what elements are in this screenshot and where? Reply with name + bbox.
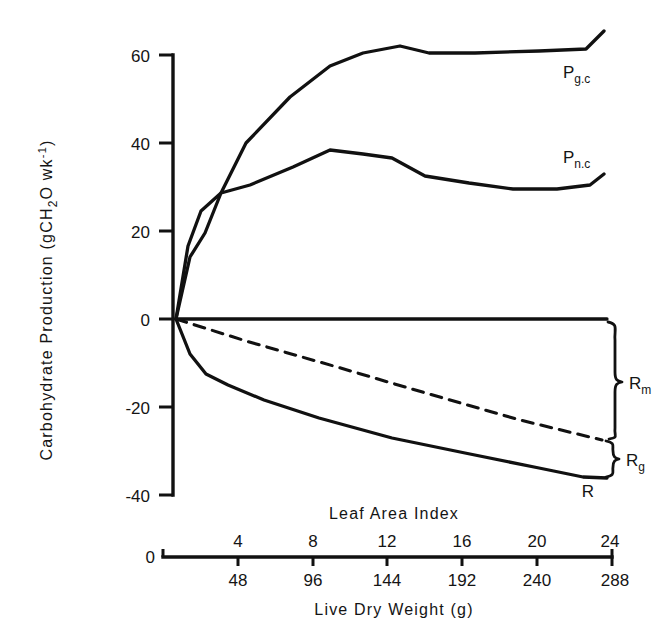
curve-rm-dashed: [176, 319, 602, 440]
brace-rg-label: Rg: [626, 451, 645, 474]
x-tick-label-0: 0: [146, 548, 155, 567]
x-tick-label-bottom-48: 48: [229, 571, 248, 590]
rm-sub: m: [641, 383, 651, 397]
curve-pgc: [176, 31, 604, 319]
pnc-base: P: [563, 148, 574, 167]
x-tick-label-bottom-288: 288: [601, 571, 629, 590]
figure-page: 60 40 20 0 -20 -40 Carbohydrate Producti…: [0, 0, 669, 636]
y-axis-title: Carbohydrate Production (gCH2O wk-1): [36, 139, 60, 460]
pnc-sub: n.c: [574, 157, 590, 171]
y-tick-label-0: 0: [141, 311, 150, 330]
x-tick-label-top-20: 20: [528, 532, 547, 551]
x-tick-label-bottom-96: 96: [304, 571, 323, 590]
y-axis-title-prefix: Carbohydrate Production (gCH: [38, 207, 55, 460]
pgc-sub: g.c: [574, 72, 590, 86]
y-tick-label-neg40: -40: [125, 487, 150, 506]
brace-rg: Rg: [606, 441, 645, 477]
curve-label-pnc-text: Pn.c: [563, 148, 590, 171]
rg-sub: g: [638, 460, 645, 474]
y-tick-label-neg20: -20: [125, 399, 150, 418]
svg-text:Carbohydrate Production (gCH2: Carbohydrate Production (gCH2O wk-1): [36, 139, 60, 460]
y-axis: 60 40 20 0 -20 -40: [125, 47, 173, 506]
x-tick-label-bottom-192: 192: [448, 571, 476, 590]
x-axis-title-top: Leaf Area Index: [329, 505, 459, 522]
curve-label-pgc-text: Pg.c: [563, 63, 590, 86]
pgc-base: P: [563, 63, 574, 82]
x-tick-label-top-24: 24: [601, 532, 620, 551]
x-tick-label-top-8: 8: [308, 532, 317, 551]
y-axis-title-sub2: 2: [46, 199, 60, 207]
carbohydrate-production-chart: 60 40 20 0 -20 -40 Carbohydrate Producti…: [0, 0, 669, 636]
y-tick-label-60: 60: [131, 47, 150, 66]
y-tick-label-40: 40: [131, 135, 150, 154]
rg-base: R: [626, 451, 638, 470]
x-tick-label-top-16: 16: [453, 532, 472, 551]
x-axis: 0 4 8 12 16 20 24 48 96 144 192 240 288: [146, 532, 630, 590]
x-tick-label-bottom-240: 240: [523, 571, 551, 590]
x-tick-label-top-4: 4: [233, 532, 242, 551]
x-tick-label-top-12: 12: [378, 532, 397, 551]
x-tick-label-bottom-144: 144: [373, 571, 401, 590]
brace-rm-label: Rm: [629, 374, 651, 397]
plot-area: [176, 31, 607, 478]
y-axis-title-suffix: ): [38, 139, 55, 146]
curve-pnc: [176, 150, 604, 319]
curve-r: [176, 319, 607, 478]
curve-label-pnc: Pn.c: [563, 148, 590, 171]
y-axis-title-mid: O wk: [38, 158, 55, 199]
curve-label-r: R: [582, 482, 594, 501]
y-tick-label-20: 20: [131, 223, 150, 242]
brace-rm: Rm: [608, 322, 651, 439]
x-axis-title-bottom: Live Dry Weight (g): [314, 601, 473, 618]
y-axis-title-sup: -1: [36, 146, 48, 158]
rm-base: R: [629, 374, 641, 393]
curve-label-pgc: Pg.c: [563, 63, 590, 86]
